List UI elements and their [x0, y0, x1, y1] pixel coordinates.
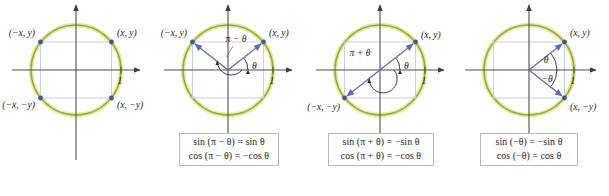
identity-sin-rhs-c: −sin θ — [395, 136, 420, 147]
identity-sin-lhs-b: sin (π − θ) — [193, 136, 235, 147]
label-angle-minus-theta: −θ — [541, 73, 552, 84]
identity-line-sin-c: sin (π + θ) = −sin θ — [342, 135, 419, 149]
panel-d: 1 (x, y) (x, −y) θ −θ (d) sin (−θ) = −si… — [456, 0, 609, 196]
identity-box-d: sin (−θ) = −sin θ cos (−θ) = cos θ — [480, 133, 578, 166]
identity-box-c: sin (π + θ) = −sin θ cos (π + θ) = −cos … — [328, 133, 434, 166]
label-point-bottom-left: (−x, −y) — [2, 99, 35, 111]
point-top-right — [261, 40, 266, 45]
identity-cos-rhs-c: −cos θ — [395, 150, 421, 161]
x-axis-tick-label: 1 — [571, 75, 576, 86]
identity-sin-rhs-b: sin θ — [246, 136, 265, 147]
label-point-bottom-left: (−x, −y) — [307, 101, 340, 113]
identity-box-b: sin (π − θ) = sin θ cos (π − θ) = −cos θ — [179, 133, 279, 166]
identity-equals-c2: = — [387, 150, 395, 161]
identity-equals-b2: = — [235, 150, 243, 161]
identity-cos-lhs-d: cos (−θ) — [497, 150, 530, 161]
label-point-top-right: (x, y) — [421, 29, 441, 41]
arc-theta — [244, 58, 248, 70]
point-top-right — [562, 40, 567, 45]
identity-cos-lhs-c: cos (π + θ) — [341, 150, 384, 161]
panel-a-diagram: 1 (x, y) (−x, y) (−x, −y) (x, −y) (a) — [0, 0, 152, 172]
point-bottom-right — [562, 96, 567, 101]
identity-sin-lhs-d: sin (−θ) — [496, 136, 527, 147]
arc-theta — [551, 54, 557, 70]
label-angle-theta: θ — [252, 60, 257, 71]
point-top-left — [190, 40, 195, 45]
trigonometric-identities-figure: 1 (x, y) (−x, y) (−x, −y) (x, −y) (a) — [0, 0, 609, 196]
arc-pi-plus-theta — [369, 70, 397, 93]
label-point-bottom-right: (x, −y) — [117, 99, 143, 111]
x-axis-tick-label: 1 — [270, 75, 275, 86]
label-angle-pi-plus-theta: π + θ — [350, 47, 371, 58]
radius-vector-pi-minus-theta — [195, 44, 228, 70]
identity-line-sin-b: sin (π − θ) = sin θ — [193, 135, 264, 149]
label-angle-theta: θ — [404, 60, 409, 71]
label-point-top-right: (x, y) — [117, 27, 137, 39]
identity-line-cos-b: cos (π − θ) = −cos θ — [189, 149, 269, 163]
panel-b: 1 (x, y) (−x, y) θ π − θ (b) sin (π − θ)… — [152, 0, 304, 196]
identity-equals-d1: = — [530, 136, 538, 147]
identity-line-cos-c: cos (π + θ) = −cos θ — [341, 149, 421, 163]
label-point-top-left: (−x, y) — [9, 27, 35, 39]
identity-cos-lhs-b: cos (π − θ) — [189, 150, 232, 161]
arc-theta — [396, 58, 400, 70]
panel-c: 1 (x, y) (−x, −y) θ π + θ (c) sin (π + θ… — [304, 0, 456, 196]
identity-equals-b1: = — [237, 136, 245, 147]
label-angle-pi-minus-theta: π − θ — [226, 33, 247, 44]
point-top-right — [109, 40, 114, 45]
label-point-top-right: (x, y) — [269, 27, 289, 39]
point-top-left — [38, 40, 43, 45]
label-point-top-left: (−x, y) — [161, 27, 187, 39]
panel-a: 1 (x, y) (−x, y) (−x, −y) (x, −y) (a) — [0, 0, 152, 196]
identity-cos-rhs-d: cos θ — [541, 150, 562, 161]
label-angle-theta: θ — [544, 54, 549, 65]
radius-vector-pi-plus-theta — [347, 70, 380, 96]
identity-cos-rhs-b: −cos θ — [243, 150, 269, 161]
point-bottom-right — [109, 96, 114, 101]
label-point-top-right: (x, y) — [570, 27, 590, 39]
point-top-right — [413, 40, 418, 45]
x-axis-tick-label: 1 — [422, 75, 427, 86]
point-bottom-left — [342, 96, 347, 101]
identity-sin-lhs-c: sin (π + θ) — [342, 136, 384, 147]
identity-equals-c1: = — [387, 136, 395, 147]
x-axis-tick-label: 1 — [118, 75, 123, 86]
identity-line-cos-d: cos (−θ) = cos θ — [497, 149, 562, 163]
identity-sin-rhs-d: −sin θ — [538, 136, 563, 147]
identity-equals-d2: = — [532, 150, 540, 161]
point-bottom-left — [38, 96, 43, 101]
label-point-bottom-right: (x, −y) — [570, 101, 596, 113]
identity-line-sin-d: sin (−θ) = −sin θ — [496, 135, 563, 149]
